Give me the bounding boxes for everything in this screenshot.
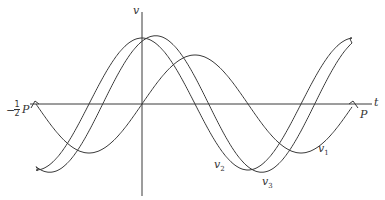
period-label: P	[360, 108, 367, 121]
curve-label-v1: v1	[318, 142, 329, 157]
neg-half-period-symbol: P	[22, 103, 29, 116]
v-axis-label: v	[133, 4, 139, 17]
waveform-diagram	[0, 0, 385, 200]
half-fraction: 1 2	[14, 101, 20, 118]
closure-left	[36, 167, 38, 171]
curve-label-v3: v3	[262, 175, 273, 190]
curve-label-v2: v2	[214, 158, 225, 173]
t-axis-label: t	[374, 96, 378, 109]
